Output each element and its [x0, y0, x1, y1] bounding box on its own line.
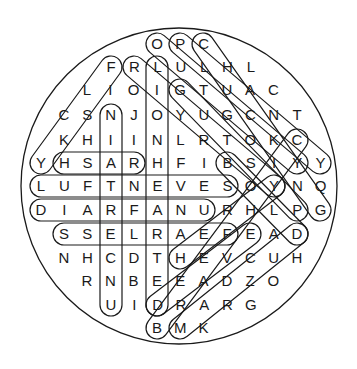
grid-letter[interactable]: B	[146, 317, 168, 339]
grid-letter[interactable]: E	[100, 223, 122, 245]
grid-letter[interactable]: D	[216, 270, 238, 292]
grid-letter[interactable]: C	[193, 33, 215, 55]
grid-letter[interactable]: T	[193, 79, 215, 101]
grid-letter[interactable]: B	[216, 152, 238, 174]
grid-letter[interactable]: Y	[310, 152, 332, 174]
grid-letter[interactable]: D	[286, 223, 308, 245]
grid-letter[interactable]: D	[30, 199, 52, 221]
grid-letter[interactable]: H	[217, 56, 239, 78]
grid-letter[interactable]: I	[263, 152, 285, 174]
grid-letter[interactable]: T	[146, 247, 168, 269]
grid-letter[interactable]: A	[263, 223, 285, 245]
grid-letter[interactable]: S	[53, 223, 75, 245]
grid-letter[interactable]: L	[240, 56, 262, 78]
grid-letter[interactable]: O	[262, 270, 284, 292]
grid-letter[interactable]: C	[100, 247, 122, 269]
grid-letter[interactable]: U	[216, 79, 238, 101]
grid-letter[interactable]: Q	[310, 175, 332, 197]
grid-letter[interactable]: F	[216, 223, 238, 245]
grid-letter[interactable]: F	[123, 199, 145, 221]
grid-letter[interactable]: B	[123, 270, 145, 292]
grid-letter[interactable]: O	[146, 104, 168, 126]
grid-letter[interactable]: A	[100, 152, 122, 174]
grid-letter[interactable]: H	[286, 247, 308, 269]
grid-letter[interactable]: V	[216, 247, 238, 269]
grid-letter[interactable]: S	[77, 152, 99, 174]
grid-letter[interactable]: N	[100, 104, 122, 126]
grid-letter[interactable]: S	[240, 152, 262, 174]
grid-letter[interactable]: U	[193, 104, 215, 126]
grid-letter[interactable]: H	[240, 199, 262, 221]
grid-letter[interactable]: P	[286, 199, 308, 221]
grid-letter[interactable]: I	[53, 199, 75, 221]
grid-letter[interactable]: H	[76, 247, 98, 269]
grid-letter[interactable]: Y	[286, 152, 308, 174]
grid-letter[interactable]: E	[193, 223, 215, 245]
grid-letter[interactable]: L	[30, 175, 52, 197]
grid-letter[interactable]: N	[263, 104, 285, 126]
grid-letter[interactable]: R	[100, 199, 122, 221]
grid-letter[interactable]: K	[263, 129, 285, 151]
grid-letter[interactable]: E	[193, 175, 215, 197]
grid-letter[interactable]: N	[53, 247, 75, 269]
grid-letter[interactable]: R	[76, 270, 98, 292]
grid-letter[interactable]: I	[123, 129, 145, 151]
grid-letter[interactable]: R	[193, 129, 215, 151]
grid-letter[interactable]: A	[193, 294, 215, 316]
grid-letter[interactable]: S	[76, 104, 98, 126]
grid-letter[interactable]: D	[123, 247, 145, 269]
grid-letter[interactable]: L	[76, 79, 98, 101]
grid-letter[interactable]: O	[146, 33, 168, 55]
grid-letter[interactable]: H	[170, 247, 192, 269]
grid-letter[interactable]: H	[53, 152, 75, 174]
grid-letter[interactable]: Y	[263, 175, 285, 197]
grid-letter[interactable]: S	[76, 223, 98, 245]
grid-letter[interactable]: O	[239, 129, 261, 151]
grid-letter[interactable]: C	[53, 104, 75, 126]
grid-letter[interactable]: L	[263, 199, 285, 221]
grid-letter[interactable]: E	[147, 175, 169, 197]
grid-letter[interactable]: V	[170, 175, 192, 197]
grid-letter[interactable]: U	[53, 175, 75, 197]
grid-letter[interactable]: G	[310, 199, 332, 221]
grid-letter[interactable]: T	[100, 175, 122, 197]
grid-letter[interactable]: F	[170, 152, 192, 174]
grid-letter[interactable]: T	[216, 129, 238, 151]
grid-letter[interactable]: P	[169, 33, 191, 55]
grid-letter[interactable]: T	[286, 104, 308, 126]
grid-letter[interactable]: U	[263, 247, 285, 269]
grid-letter[interactable]: R	[123, 152, 145, 174]
grid-letter[interactable]: E	[239, 223, 261, 245]
grid-letter[interactable]: U	[170, 56, 192, 78]
grid-letter[interactable]: R	[216, 199, 238, 221]
grid-letter[interactable]: I	[146, 79, 168, 101]
grid-letter[interactable]: N	[99, 270, 121, 292]
grid-letter[interactable]: A	[147, 199, 169, 221]
grid-letter[interactable]: I	[123, 294, 145, 316]
grid-letter[interactable]: E	[169, 270, 191, 292]
grid-letter[interactable]: G	[240, 294, 262, 316]
grid-letter[interactable]: A	[170, 223, 192, 245]
grid-letter[interactable]: L	[147, 56, 169, 78]
grid-letter[interactable]: E	[193, 247, 215, 269]
grid-letter[interactable]: G	[169, 79, 191, 101]
grid-letter[interactable]: N	[123, 175, 145, 197]
grid-letter[interactable]: M	[169, 317, 191, 339]
grid-letter[interactable]: R	[146, 223, 168, 245]
grid-letter[interactable]: L	[123, 223, 145, 245]
grid-letter[interactable]: K	[193, 317, 215, 339]
grid-letter[interactable]: A	[193, 270, 215, 292]
grid-letter[interactable]: F	[100, 56, 122, 78]
grid-letter[interactable]: Y	[170, 104, 192, 126]
grid-letter[interactable]: F	[77, 175, 99, 197]
grid-letter[interactable]: Y	[30, 152, 52, 174]
grid-letter[interactable]: R	[217, 294, 239, 316]
grid-letter[interactable]: L	[170, 129, 192, 151]
grid-letter[interactable]: I	[100, 129, 122, 151]
grid-letter[interactable]: C	[239, 104, 261, 126]
grid-letter[interactable]: H	[76, 129, 98, 151]
grid-letter[interactable]: I	[99, 79, 121, 101]
grid-letter[interactable]: R	[170, 294, 192, 316]
grid-letter[interactable]: U	[100, 294, 122, 316]
grid-letter[interactable]: O	[240, 175, 262, 197]
